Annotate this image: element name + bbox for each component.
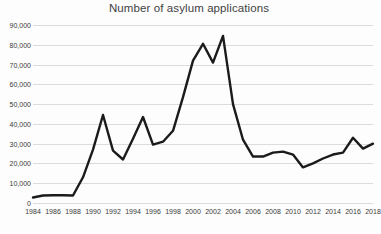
x-tick-label: 2006 [245,207,261,216]
y-tick-label: 20,000 [0,160,31,167]
y-tick-label: 70,000 [0,61,31,68]
x-tick-label: 1988 [65,207,81,216]
x-tick-label: 2002 [205,207,221,216]
y-tick-label: 80,000 [0,41,31,48]
x-tick-label: 1986 [45,207,61,216]
y-tick-label: 10,000 [0,180,31,187]
x-axis: 1984198619881990199219941996199820002002… [33,207,373,221]
gridline [33,203,373,204]
x-tick-label: 2012 [305,207,321,216]
x-tick-label: 2018 [365,207,381,216]
x-tick-label: 1992 [105,207,121,216]
x-tick-label: 1990 [85,207,101,216]
plot-area [33,25,373,203]
x-tick-label: 2000 [185,207,201,216]
y-tick-label: 50,000 [0,101,31,108]
y-tick-label: 0 [0,200,31,207]
y-axis: 010,00020,00030,00040,00050,00060,00070,… [0,25,31,203]
x-tick-label: 2014 [325,207,341,216]
x-tick-label: 1998 [165,207,181,216]
y-tick-label: 60,000 [0,81,31,88]
x-tick-label: 2016 [345,207,361,216]
x-tick-label: 2008 [265,207,281,216]
x-tick-label: 2010 [285,207,301,216]
x-tick-label: 1984 [25,207,41,216]
x-tick-label: 2004 [225,207,241,216]
x-tick-label: 1996 [145,207,161,216]
x-tick-label: 1994 [125,207,141,216]
y-tick-label: 30,000 [0,140,31,147]
y-tick-label: 90,000 [0,22,31,29]
series-container [33,25,373,203]
asylum-applications-line [33,36,373,198]
chart-title: Number of asylum applications [0,2,378,14]
y-tick-label: 40,000 [0,120,31,127]
